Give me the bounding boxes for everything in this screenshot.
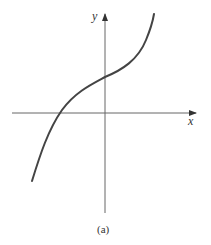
y-axis-label: y: [91, 9, 98, 23]
function-graph: y x (a): [0, 0, 211, 245]
figure-caption: (a): [97, 223, 110, 236]
function-curve: [32, 14, 154, 181]
x-axis-label: x: [187, 114, 194, 128]
